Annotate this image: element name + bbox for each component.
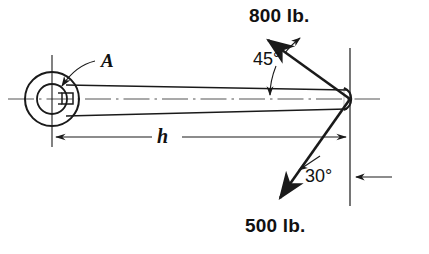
force-500-label: 500 lb. bbox=[245, 216, 306, 235]
force-800-label: 800 lb. bbox=[249, 6, 310, 25]
bar-body bbox=[66, 85, 347, 116]
angle-45-label: 45° bbox=[253, 50, 280, 68]
dimension-h-label: h bbox=[157, 126, 168, 146]
diagram-canvas bbox=[0, 0, 429, 254]
force-800-vector bbox=[268, 40, 350, 99]
force-diagram-figure: 800 lb. 45° 30° 500 lb. h A bbox=[0, 0, 429, 254]
point-a-label: A bbox=[101, 51, 114, 70]
angle-30-label: 30° bbox=[305, 167, 332, 185]
label-a-leader bbox=[62, 61, 95, 86]
